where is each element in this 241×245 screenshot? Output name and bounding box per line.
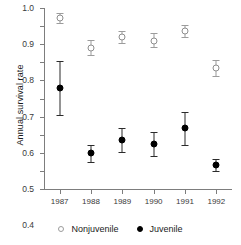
error-bar-cap [150, 33, 157, 34]
legend-entry: Nonjuvenile [58, 224, 118, 234]
y-tick-mark: 0.1 [40, 171, 44, 172]
y-tick-mark: 0.9 [40, 26, 44, 27]
error-bar-cap [182, 25, 189, 26]
error-bar-cap [119, 31, 126, 32]
data-point-nonjuvenile [56, 14, 63, 21]
y-tick-mark: 0.3 [40, 135, 44, 136]
y-tick-mark: 1.0 [40, 8, 44, 9]
x-tick-mark [216, 190, 217, 194]
legend-label: Juvenile [150, 224, 183, 234]
error-bar-cap [88, 40, 95, 41]
error-bar-cap [88, 145, 95, 146]
y-tick-label: 0.7 [22, 112, 34, 122]
error-bar-cap [88, 162, 95, 163]
error-bar-cap [182, 145, 189, 146]
data-point-nonjuvenile [119, 33, 126, 40]
x-tick-label: 1992 [207, 197, 225, 206]
error-bar-cap [56, 115, 63, 116]
data-point-juvenile [119, 137, 126, 144]
error-bar-cap [213, 60, 220, 61]
annual-survival-rate-chart: Annual survival rate 0.00.10.20.30.40.50… [0, 0, 241, 245]
error-bar-cap [119, 152, 126, 153]
data-point-nonjuvenile [150, 37, 157, 44]
data-point-juvenile [56, 84, 63, 91]
error-bar-cap [213, 159, 220, 160]
error-bar-cap [56, 23, 63, 24]
y-tick-mark: 0.7 [40, 62, 44, 63]
y-tick-mark: 0.4 [40, 117, 44, 118]
error-bar-cap [56, 13, 63, 14]
data-point-juvenile [88, 149, 95, 156]
y-tick-mark: 0.0 [40, 189, 44, 190]
y-tick-mark: 0.2 [40, 153, 44, 154]
legend-label: Nonjuvenile [71, 224, 118, 234]
x-axis-line [44, 189, 232, 190]
filled-circle-icon [137, 226, 143, 232]
error-bar-cap [213, 171, 220, 172]
error-bar-cap [88, 55, 95, 56]
data-point-juvenile [182, 125, 189, 132]
error-bar-cap [150, 47, 157, 48]
y-tick-label: 1.0 [22, 3, 34, 13]
y-axis-line [44, 8, 45, 190]
error-bar-cap [119, 43, 126, 44]
x-tick-mark [122, 190, 123, 194]
x-tick-mark [91, 190, 92, 194]
y-tick-label: 0.9 [22, 39, 34, 49]
y-tick-mark: 0.5 [40, 99, 44, 100]
error-bar-cap [182, 112, 189, 113]
y-tick-label: 0.6 [22, 148, 34, 158]
data-point-nonjuvenile [213, 64, 220, 71]
data-point-juvenile [150, 140, 157, 147]
x-tick-label: 1989 [113, 197, 131, 206]
error-bar-cap [150, 132, 157, 133]
error-bar-cap [182, 37, 189, 38]
y-tick-label: 0.8 [22, 75, 34, 85]
data-point-nonjuvenile [182, 27, 189, 34]
x-tick-label: 1987 [51, 197, 69, 206]
error-bar-cap [213, 76, 220, 77]
y-tick-label: 0.5 [22, 184, 34, 194]
x-tick-label: 1990 [145, 197, 163, 206]
x-tick-label: 1991 [176, 197, 194, 206]
y-tick-mark: 0.8 [40, 44, 44, 45]
legend-entry: Juvenile [137, 224, 183, 234]
plot-area: 0.00.10.20.30.40.50.60.70.80.91.0 198719… [44, 8, 232, 190]
x-tick-mark [154, 190, 155, 194]
error-bar-cap [119, 128, 126, 129]
x-tick-mark [60, 190, 61, 194]
open-circle-icon [58, 226, 64, 232]
data-point-juvenile [213, 162, 220, 169]
error-bar-cap [150, 156, 157, 157]
chart-legend: NonjuvenileJuvenile [0, 224, 241, 234]
error-bar-cap [56, 61, 63, 62]
x-tick-label: 1988 [82, 197, 100, 206]
data-point-nonjuvenile [88, 44, 95, 51]
y-tick-mark: 0.6 [40, 80, 44, 81]
x-tick-mark [185, 190, 186, 194]
